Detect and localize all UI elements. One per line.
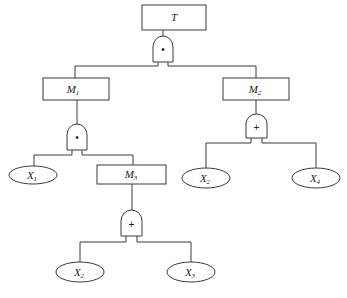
svg-text:+: +: [129, 219, 135, 230]
basic-event-X4: X4: [292, 168, 340, 188]
or-gate-M2: +: [246, 114, 267, 138]
svg-text:+: +: [254, 122, 260, 133]
svg-text:•: •: [161, 44, 165, 55]
basic-event-X2-left: X2: [56, 262, 104, 282]
basic-event-X2-right: X2: [182, 168, 230, 188]
svg-text:•: •: [75, 132, 79, 143]
fault-tree-diagram: T • M1 • X1 M3 + X2: [0, 0, 347, 298]
intermediate-event-M3: M3: [97, 165, 166, 184]
basic-event-X3: X3: [167, 262, 215, 282]
svg-text:T: T: [171, 11, 178, 23]
and-gate-T: •: [153, 36, 173, 62]
basic-event-X1: X1: [9, 166, 57, 184]
top-event-T: T: [142, 5, 206, 30]
and-gate-M1: •: [67, 124, 87, 150]
intermediate-event-M2: M2: [223, 78, 289, 100]
or-gate-M3: +: [121, 210, 142, 236]
intermediate-event-M1: M1: [43, 78, 109, 100]
